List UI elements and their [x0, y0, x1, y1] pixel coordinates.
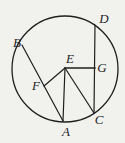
circle-diagram-canvas: BDEGFAC — [0, 0, 125, 143]
point-label-E: E — [65, 51, 74, 66]
point-label-C: C — [95, 112, 104, 127]
point-label-B: B — [13, 35, 21, 50]
point-label-F: F — [31, 78, 41, 93]
point-label-A: A — [61, 124, 70, 139]
point-label-G: G — [97, 60, 107, 75]
point-label-D: D — [98, 11, 109, 26]
geometry-figure: BDEGFAC — [0, 0, 125, 143]
